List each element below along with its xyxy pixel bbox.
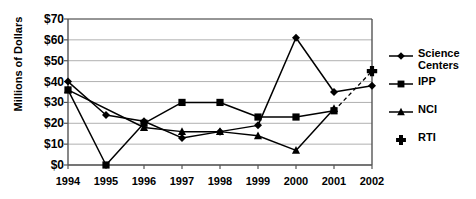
legend-item-label: IPP	[418, 76, 436, 88]
x-axis-tick-label: 2002	[350, 175, 394, 187]
legend-marker-diamond-icon	[388, 48, 414, 64]
legend-sample-marker	[396, 135, 406, 145]
legend-marker-cross-icon	[388, 132, 414, 148]
legend-item[interactable]: NCI	[388, 104, 476, 122]
legend-sample-marker	[397, 52, 405, 60]
line-chart: Millions of Dollars $0$10$20$30$40$50$60…	[0, 0, 476, 199]
legend-item-label: RTI	[418, 132, 436, 144]
legend-item[interactable]: IPP	[388, 76, 476, 94]
chart-legend: Science CentersIPPNCIRTI	[388, 48, 476, 160]
legend-item-label: Science Centers	[418, 48, 460, 71]
legend-item[interactable]: RTI	[388, 132, 476, 150]
legend-item-label: NCI	[418, 104, 437, 116]
legend-item[interactable]: Science Centers	[388, 48, 476, 66]
legend-marker-square-icon	[388, 76, 414, 92]
legend-sample-marker	[398, 81, 405, 88]
legend-marker-triangle-icon	[388, 104, 414, 120]
